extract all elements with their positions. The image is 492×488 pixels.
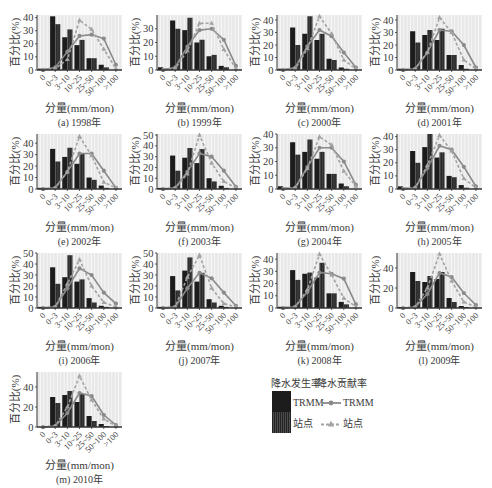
legend-contribution-header: 降水贡献率 — [317, 378, 367, 389]
legend-trmm-line-label: TRMM — [343, 397, 374, 408]
legend-occurrence-header: 降水发生率 — [271, 378, 321, 389]
legend-trmm-line-icon — [320, 398, 342, 408]
legend-station-line-icon — [320, 419, 342, 429]
legend-trmm-bar-label: TRMM — [293, 397, 324, 408]
legend: 降水发生率 降水贡献率 TRMM TRMM 站点 站点 — [0, 0, 492, 488]
legend-station-bar-label: 站点 — [293, 418, 313, 429]
legend-trmm-bar-swatch — [272, 391, 291, 412]
legend-station-line-label: 站点 — [343, 418, 363, 429]
legend-station-bar-swatch — [272, 412, 291, 433]
